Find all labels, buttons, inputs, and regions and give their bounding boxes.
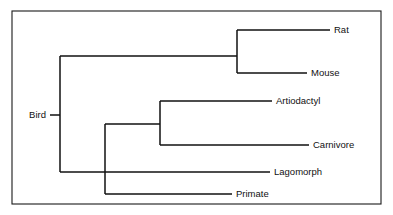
taxon-label-mouse: Mouse [311, 67, 340, 78]
taxon-label-carnivore: Carnivore [313, 139, 354, 150]
phylogenetic-tree-figure: Rat Mouse Artiodactyl Carnivore Lagomorp… [0, 0, 393, 215]
taxon-label-primate: Primate [236, 188, 269, 199]
taxon-label-rat: Rat [334, 24, 349, 35]
taxon-label-artiodactyl: Artiodactyl [276, 95, 320, 106]
taxon-label-lagomorph: Lagomorph [274, 166, 322, 177]
taxon-label-bird: Bird [29, 109, 46, 120]
tree-canvas: Rat Mouse Artiodactyl Carnivore Lagomorp… [0, 0, 393, 215]
figure-border [12, 11, 381, 204]
